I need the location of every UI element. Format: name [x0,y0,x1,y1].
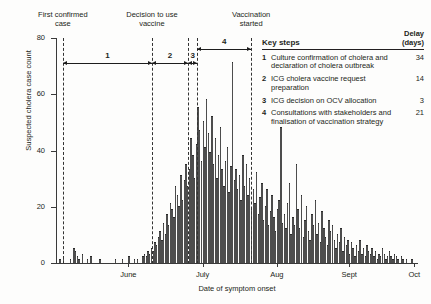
x-tick-label: Sept [329,270,369,279]
arrow-left-icon [197,47,201,51]
key-step-delay: 3 [408,97,424,106]
x-tick-label: July [183,270,223,279]
key-step-row: 3ICG decision on OCV allocation3 [262,97,424,106]
key-step-number: 1 [262,54,271,72]
key-step-text: ICG decision on OCV allocation [271,97,408,106]
event-line-decision [152,38,153,264]
key-title: Key steps [262,38,300,47]
timeline-step-number-4: 4 [217,37,231,46]
chart-figure: 020406080 Suspected cholera case count F… [0,0,431,304]
event-line-icg-a [188,38,189,264]
timeline-step-number-2: 2 [163,51,177,60]
key-step-text: Culture confirmation of cholera and decl… [271,54,408,72]
event-label-vaccination: Vaccinationstarted [206,10,296,28]
timeline-segment-4 [197,49,251,50]
y-tick-label: 0 [27,259,45,267]
key-step-row: 4Consultations with stakeholders and fin… [262,109,424,127]
event-label-line1: Decision to use [126,10,177,19]
timeline-step-number-1: 1 [100,51,114,60]
x-tick [203,263,204,267]
event-label-line1: Vaccination [232,10,270,19]
x-axis-title: Date of symptom onset [56,284,418,293]
arrow-left-icon [152,61,156,65]
event-line-vaccination [251,38,252,264]
timeline-segment-1 [63,63,152,64]
key-step-delay: 21 [408,109,424,127]
x-tick-label: June [108,270,148,279]
event-label-line2: started [240,19,263,28]
event-label-line2: case [55,19,71,28]
x-tick-label: Oct [394,270,431,279]
event-label-line2: vaccine [139,19,164,28]
key-step-number: 2 [262,75,271,93]
arrow-right-icon [193,61,197,65]
x-tick [349,263,350,267]
timeline-segment-2 [152,63,188,64]
event-label-decision: Decision to usevaccine [107,10,197,28]
x-tick [277,263,278,267]
x-tick [128,263,129,267]
event-line-icg-b [197,38,198,264]
event-line-first-case [63,38,64,264]
key-step-number: 3 [262,97,271,106]
bar [82,254,83,263]
bar [90,256,91,263]
y-axis-title: Suspected cholera case count [24,21,33,181]
key-step-text: ICG cholera vaccine request preparation [271,75,408,93]
bar [128,256,129,263]
key-step-text: Consultations with stakeholders and fina… [271,109,408,127]
x-axis-line [56,263,418,264]
arrow-left-icon [63,61,67,65]
key-step-row: 2ICG cholera vaccine request preparation… [262,75,424,93]
key-delay-header: Delay (days) [402,30,424,47]
event-label-line1: First confirmed [38,10,88,19]
event-label-first-case: First confirmedcase [18,10,108,28]
key-step-delay: 14 [408,75,424,93]
key-rows: 1Culture confirmation of cholera and dec… [262,54,424,128]
arrow-left-icon [188,61,192,65]
x-tick [414,263,415,267]
key-step-delay: 34 [408,54,424,72]
timeline-step-number-3: 3 [186,51,200,60]
key-step-number: 4 [262,109,271,127]
key-step-row: 1Culture confirmation of cholera and dec… [262,54,424,72]
key-delay-header-line2: (days) [402,38,424,47]
key-header: Key steps Delay (days) [262,30,424,50]
y-tick-label: 20 [27,203,45,211]
x-tick-label: Aug [257,270,297,279]
key-steps-legend: Key steps Delay (days) 1Culture confirma… [262,30,424,127]
arrow-right-icon [247,47,251,51]
